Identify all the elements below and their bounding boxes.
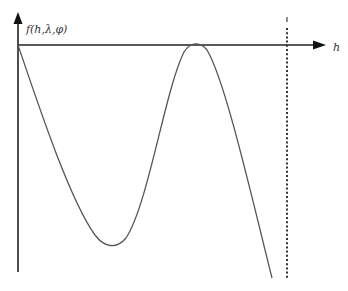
- function-curve: [18, 44, 272, 278]
- y-axis-label: f(h,λ,φ): [25, 23, 67, 36]
- x-axis-label: h: [333, 41, 340, 54]
- y-axis-arrow-icon: [14, 12, 23, 24]
- x-axis-arrow-icon: [313, 41, 326, 50]
- function-diagram: f(h,λ,φ) h: [0, 0, 348, 291]
